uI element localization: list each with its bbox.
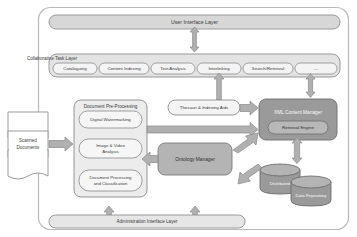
task-pill-content-indexing[interactable]: Content Indexing <box>99 63 149 74</box>
task-pill-cataloguing-label: Cataloguing <box>63 66 87 71</box>
document-preprocessing-label: Document Pre-Processing <box>84 104 138 109</box>
scanned-documents-label-line1: Scanned <box>19 138 37 143</box>
arrow-ui-to-task <box>190 27 199 52</box>
storage-data-repository-label: Data Repository <box>296 193 328 198</box>
task-pill-text-analysis[interactable]: Text Analysis <box>151 63 195 74</box>
task-pill-interlinking-label: Interlinking <box>208 66 230 71</box>
module-document-processing-classification-label-line1: Document Processing <box>89 175 132 180</box>
task-pill-search-retrieval[interactable]: Search/Retrieval <box>243 63 293 74</box>
ontology-manager-label: Ontology Manager <box>175 157 215 162</box>
retrieval-engine[interactable]: Retrieval Engine <box>268 121 328 134</box>
xml-content-manager-label: XML Content Manager <box>274 110 322 115</box>
arrow-content-manager-to-task <box>306 74 315 98</box>
scanned-documents-label-line2: Documents <box>17 145 41 150</box>
module-image-video-analysis[interactable]: Image & Video Analysis <box>79 139 142 158</box>
architecture-diagram: User Interface Layer Collaborative Task … <box>0 0 357 237</box>
collaborative-task-layer-label: Collaborative Task Layer <box>27 56 78 61</box>
diagram-canvas: User Interface Layer Collaborative Task … <box>0 0 357 237</box>
document-preprocessing-group: Document Pre-Processing Digital Watermar… <box>74 100 147 197</box>
arrow-ontology-to-content-manager <box>233 133 258 153</box>
arrow-thesauri-to-content-manager <box>240 101 258 115</box>
arrow-storage-to-ontology <box>238 164 262 184</box>
retrieval-engine-label: Retrieval Engine <box>282 125 315 130</box>
scanned-documents-input[interactable]: Scanned Documents <box>8 112 48 179</box>
task-pill-content-indexing-label: Content Indexing <box>107 66 141 71</box>
xml-content-manager[interactable]: XML Content Manager Retrieval Engine <box>259 99 337 140</box>
storage-distributed-label: Distributed <box>270 181 291 186</box>
ontology-manager[interactable]: Ontology Manager <box>158 143 232 175</box>
module-document-processing-classification[interactable]: Document Processing and Classification <box>79 170 142 191</box>
task-pill-text-analysis-label: Text Analysis <box>160 66 186 71</box>
storage-distributed-top <box>260 164 300 176</box>
task-pill-more-label: ... <box>314 66 318 71</box>
storage-data-repository-top <box>291 176 331 188</box>
module-image-video-analysis-label-line1: Image & Video <box>96 143 125 148</box>
module-digital-watermarking-label: Digital Watermarking <box>90 117 131 122</box>
module-digital-watermarking[interactable]: Digital Watermarking <box>79 111 142 128</box>
connector-preprocessing-to-content-manager <box>147 123 258 137</box>
task-pill-search-retrieval-label: Search/Retrieval <box>252 66 284 71</box>
module-image-video-analysis-label-line2: Analysis <box>102 149 119 154</box>
arrow-content-manager-to-storage <box>292 138 302 164</box>
task-pill-interlinking[interactable]: Interlinking <box>197 63 241 74</box>
administration-interface-layer-label: Administration Interface Layer <box>116 219 177 224</box>
thesauri-indexing-aids[interactable]: Thesauri & Indexing Aids <box>168 100 240 115</box>
collaborative-task-layer: Collaborative Task Layer Cataloguing Con… <box>27 54 340 77</box>
task-pill-cataloguing[interactable]: Cataloguing <box>53 63 97 74</box>
module-document-processing-classification-label-line2: and Classification <box>94 181 128 186</box>
document-sheet-front <box>8 150 48 179</box>
arrow-documents-to-preprocessing <box>49 137 73 151</box>
storage-data-repository[interactable]: Data Repository <box>291 176 331 206</box>
administration-interface-layer[interactable]: Administration Interface Layer <box>49 215 245 228</box>
thesauri-indexing-aids-label: Thesauri & Indexing Aids <box>180 105 229 110</box>
task-pill-more[interactable]: ... <box>295 63 337 74</box>
user-interface-layer-label: User Interface Layer <box>171 19 218 25</box>
arrow-thesauri-to-task <box>214 73 224 100</box>
